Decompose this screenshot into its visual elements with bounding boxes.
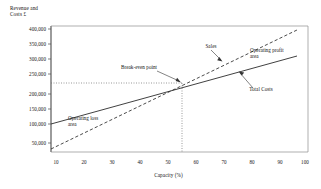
x-tick-label-100: 100 bbox=[301, 159, 309, 165]
y-tick-label-350000: 350,000 bbox=[29, 41, 46, 47]
y-tick-label-100000: 100,000 bbox=[29, 121, 46, 127]
total-costs-label: Total Costs bbox=[249, 86, 273, 92]
operating-loss-area-label-line2: area bbox=[68, 121, 77, 127]
x-tick-label-60: 60 bbox=[193, 159, 199, 165]
sales-arrowhead-icon bbox=[217, 57, 222, 62]
x-axis-title: Capacity (%) bbox=[0, 172, 321, 178]
sales-label: Sales bbox=[205, 43, 216, 49]
x-tick-label-70: 70 bbox=[221, 159, 227, 165]
break-even-arrowhead-icon bbox=[176, 78, 181, 83]
break-even-chart: Revenue and Costs £ 400,000 350,000 300,… bbox=[0, 0, 321, 189]
x-tick-label-20: 20 bbox=[81, 159, 87, 165]
y-tick-label-300000: 300,000 bbox=[29, 56, 46, 62]
y-tick-label-250000: 250,000 bbox=[29, 71, 46, 77]
x-tick-label-10: 10 bbox=[53, 159, 59, 165]
x-tick-label-90: 90 bbox=[277, 159, 283, 165]
total-costs-arrowhead-icon bbox=[239, 71, 245, 75]
x-tick-label-40: 40 bbox=[137, 159, 143, 165]
operating-profit-area-label-line2: area bbox=[250, 53, 259, 59]
x-axis-title-text: Capacity (%) bbox=[154, 172, 183, 178]
x-tick-label-50: 50 bbox=[165, 159, 171, 165]
plot-area: 400,000 350,000 300,000 250,000 200,000 … bbox=[0, 0, 321, 189]
x-tick-label-80: 80 bbox=[249, 159, 255, 165]
break-even-label: Break-even point bbox=[121, 64, 158, 70]
y-tick-label-150000: 150,000 bbox=[29, 106, 46, 112]
break-even-leader-line bbox=[157, 71, 179, 81]
y-tick-label-200000: 200,000 bbox=[29, 91, 46, 97]
x-tick-label-30: 30 bbox=[109, 159, 115, 165]
y-tick-label-50000: 50,000 bbox=[32, 140, 47, 146]
y-tick-label-400000: 400,000 bbox=[29, 26, 46, 32]
